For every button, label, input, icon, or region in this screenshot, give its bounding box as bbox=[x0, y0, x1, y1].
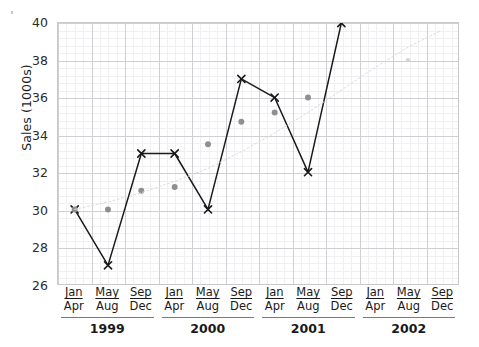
y-tick-label: 32 bbox=[32, 165, 48, 180]
y-axis-tick-labels: 2628303234363840 bbox=[0, 0, 54, 347]
y-tick-label: 36 bbox=[32, 90, 48, 105]
x-axis-labels: JanAprMayAugSepDecJanAprMayAugSepDecJanA… bbox=[57, 286, 459, 347]
year-group-rule bbox=[61, 317, 154, 318]
y-tick-label: 30 bbox=[32, 202, 48, 217]
y-tick-label: 28 bbox=[32, 240, 48, 255]
year-group-rule bbox=[262, 317, 355, 318]
y-tick-label: 40 bbox=[32, 15, 48, 30]
data-point-marker bbox=[105, 206, 111, 212]
sales-line-chart: Sales (1000s) 2628303234363840 JanAprMay… bbox=[0, 0, 479, 347]
data-point-marker bbox=[272, 110, 278, 116]
data-point-marker bbox=[406, 58, 410, 62]
x-tick-month-end: Dec bbox=[420, 300, 464, 314]
x-tick-label: SepDec bbox=[420, 286, 464, 313]
data-point-marker bbox=[271, 94, 278, 101]
data-point-marker bbox=[305, 95, 311, 101]
year-label: 2001 bbox=[262, 321, 355, 336]
y-tick-label: 34 bbox=[32, 127, 48, 142]
year-label: 2000 bbox=[162, 321, 255, 336]
series-line-2 bbox=[75, 30, 442, 209]
y-tick-label: 38 bbox=[32, 52, 48, 67]
y-tick-label: 26 bbox=[32, 278, 48, 293]
series-layer bbox=[58, 23, 458, 284]
plot-area bbox=[57, 22, 459, 285]
data-point-marker bbox=[238, 119, 244, 125]
year-group-rule bbox=[162, 317, 255, 318]
x-tick-month-start: Sep bbox=[420, 286, 464, 300]
year-label: 1999 bbox=[61, 321, 154, 336]
data-point-marker bbox=[172, 184, 178, 190]
data-point-marker bbox=[205, 141, 211, 147]
year-label: 2002 bbox=[363, 321, 456, 336]
year-group-rule bbox=[363, 317, 456, 318]
